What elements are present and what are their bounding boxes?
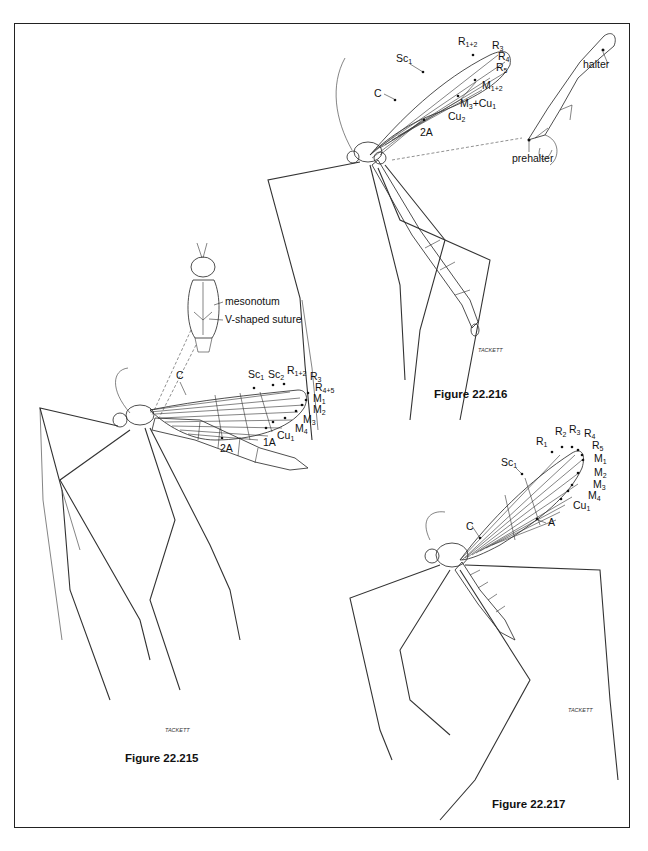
- caption-figure-22-217: Figure 22.217: [492, 798, 566, 810]
- crane-fly-illustrations: halter prehalter Sc1 R1+2 R3 R4 R5 M1+2 …: [0, 0, 648, 851]
- svg-text:R1+2: R1+2: [287, 364, 307, 377]
- antenna-215: [116, 368, 131, 413]
- leg-217-1: [350, 565, 440, 760]
- abdomen-217: [455, 562, 515, 640]
- figure-22-217: C Sc1 R1 R2 R3 R4 R5 M1 M2 M3 M4 Cu1 A: [350, 423, 618, 820]
- figure-22-215: mesonotum V-shaped suture C Sc1 Sc2 R1+2: [40, 243, 335, 764]
- svg-text:R1+2: R1+2: [458, 35, 478, 48]
- antenna-217: [426, 512, 445, 540]
- svg-text:2A: 2A: [420, 126, 433, 138]
- label-prehalter: prehalter: [512, 152, 554, 164]
- leg-215-1: [40, 408, 118, 700]
- artist-signature-215: TACKETT: [165, 727, 190, 733]
- antenna-216: [336, 58, 352, 150]
- svg-text:Sc1: Sc1: [248, 368, 264, 381]
- svg-text:Sc2: Sc2: [268, 368, 284, 381]
- svg-text:R3: R3: [569, 423, 581, 436]
- svg-text:R2: R2: [555, 425, 567, 438]
- svg-text:M4: M4: [588, 489, 601, 502]
- artist-signature-217: TACKETT: [568, 707, 593, 713]
- svg-text:R1: R1: [536, 435, 548, 448]
- label-v-shaped-suture: V-shaped suture: [225, 313, 302, 325]
- label-halter: halter: [583, 58, 610, 70]
- svg-text:1A: 1A: [263, 436, 276, 448]
- svg-text:C: C: [176, 369, 184, 381]
- halter-inset: halter prehalter: [512, 34, 615, 165]
- svg-text:M3+Cu1: M3+Cu1: [460, 97, 496, 110]
- wing-217: [460, 451, 584, 560]
- svg-text:C: C: [374, 87, 382, 99]
- wing-labels-216: Sc1 R1+2 R3 R4 R5 M1+2 C M3+Cu1 Cu2 2A: [374, 35, 510, 138]
- caption-figure-22-215: Figure 22.215: [125, 752, 199, 764]
- wing-labels-215: C Sc1 Sc2 R1+2 R3 R4+5 M1 M2 M3 M4 Cu1 1…: [176, 364, 335, 454]
- svg-text:M1: M1: [594, 452, 607, 465]
- abdomen-216: [372, 160, 478, 328]
- label-mesonotum: mesonotum: [225, 295, 280, 307]
- svg-text:M1+2: M1+2: [482, 79, 503, 92]
- svg-text:A: A: [548, 516, 555, 528]
- artist-signature-216: TACKETT: [478, 347, 503, 353]
- svg-text:Sc1: Sc1: [396, 52, 412, 65]
- wing-labels-217: C Sc1 R1 R2 R3 R4 R5 M1 M2 M3 M4 Cu1 A: [466, 423, 607, 539]
- svg-text:Cu2: Cu2: [448, 110, 465, 123]
- svg-text:Cu1: Cu1: [277, 429, 294, 442]
- svg-text:Sc1: Sc1: [501, 456, 517, 469]
- caption-figure-22-216: Figure 22.216: [434, 388, 508, 400]
- svg-text:2A: 2A: [220, 442, 233, 454]
- svg-text:C: C: [466, 520, 474, 532]
- svg-text:R5: R5: [592, 439, 604, 452]
